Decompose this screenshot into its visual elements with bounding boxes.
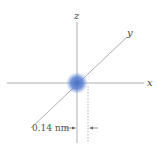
dimension-label: 0.14 nm [32,123,70,133]
electron-cloud [66,72,88,94]
z-axis-label: z [73,10,80,21]
coordinate-diagram: z y x 0.14 nm [0,0,158,150]
arrow-head-left [72,127,76,130]
y-axis-label: y [126,27,133,38]
x-axis-label: x [147,77,153,88]
arrow-head-right [89,127,93,130]
